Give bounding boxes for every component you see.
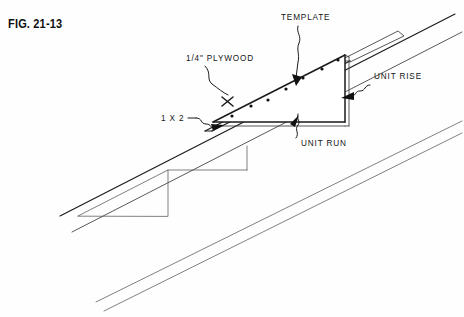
leader-template [292, 26, 302, 86]
nail-dot [266, 98, 269, 101]
plywood-leader-line [205, 66, 228, 95]
rafter-upper-member [60, 14, 462, 232]
label-1x2: 1 X 2 [161, 114, 184, 123]
ghost-triangle-outline [78, 170, 168, 216]
nail-dot [336, 58, 339, 61]
figure-container: FIG. 21-13 [0, 0, 464, 317]
rafter-lower-edge-line-a [96, 121, 462, 302]
label-template: TEMPLATE [281, 13, 330, 22]
label-unit-run: UNIT RUN [301, 139, 347, 148]
template-leader-line [296, 26, 300, 78]
cleat-leader-arrowhead [211, 124, 224, 131]
rafter-lower-edge-line-b [104, 133, 462, 311]
nail-dot [249, 104, 252, 107]
nail-dot [320, 67, 323, 70]
label-unit-rise: UNIT RISE [374, 72, 422, 81]
technical-drawing: TEMPLATE 1/4" PLYWOOD 1 X 2 UNIT RISE UN… [0, 0, 464, 317]
cleat-leader-squiggle [196, 118, 214, 128]
rafter-second-edge-line [72, 32, 462, 232]
nail-dot [230, 114, 233, 117]
label-plywood: 1/4" PLYWOOD [186, 54, 254, 63]
projected-step-triangle [78, 146, 247, 216]
template-edge-lip [345, 31, 404, 62]
leader-plywood [205, 66, 233, 106]
nail-dot [284, 87, 287, 90]
nail-dot [301, 76, 304, 79]
